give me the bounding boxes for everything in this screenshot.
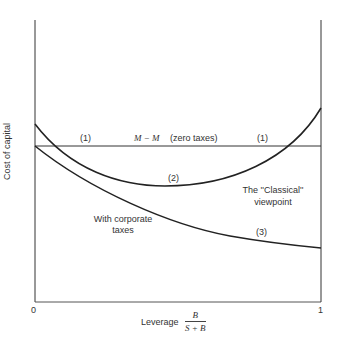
y-axis-label: Cost of capital bbox=[2, 123, 12, 180]
fraction-denominator: S + B bbox=[185, 322, 206, 333]
mm-label-main: M − M bbox=[134, 134, 160, 143]
mm-label-right: (1) bbox=[257, 134, 268, 143]
mm-label-suffix: (zero taxes) bbox=[170, 134, 218, 143]
corp-taxes-label-line2: taxes bbox=[88, 226, 158, 235]
curve3-label: (3) bbox=[256, 228, 267, 237]
x-axis-label: Leverage bbox=[141, 318, 179, 327]
classical-label-line2: viewpoint bbox=[233, 198, 313, 207]
x-tick-zero: 0 bbox=[31, 306, 36, 315]
mm-label-left: (1) bbox=[80, 134, 91, 143]
fraction-numerator: B bbox=[185, 310, 206, 322]
curve2-label: (2) bbox=[168, 174, 179, 183]
x-axis-fraction: B S + B bbox=[185, 310, 206, 333]
corp-taxes-label-line1: With corporate bbox=[88, 215, 158, 224]
x-tick-one: 1 bbox=[318, 306, 323, 315]
classical-label-line1: The ''Classical'' bbox=[233, 186, 313, 195]
